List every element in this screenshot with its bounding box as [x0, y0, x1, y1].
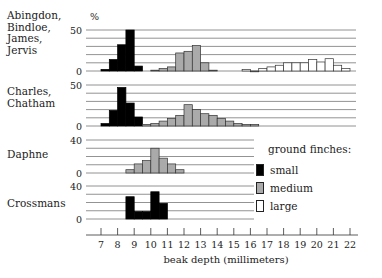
- histogram-bar-small: [134, 212, 142, 219]
- histogram-bar-large: [325, 59, 333, 71]
- x-tick-label: 16: [244, 239, 256, 250]
- histogram-bar-small: [118, 87, 126, 126]
- legend-item-large: large: [256, 197, 351, 215]
- histogram-bar-medium: [167, 119, 175, 126]
- island-label: Chatham: [7, 97, 55, 109]
- histogram-bar-small: [109, 60, 117, 71]
- histogram-bar-small: [134, 66, 142, 71]
- histogram-bar-large: [309, 60, 317, 71]
- legend-title: ground finches:: [268, 143, 351, 155]
- histogram-bar-medium-tail: [176, 170, 184, 173]
- x-tick-label: 17: [261, 239, 273, 250]
- swatch-small-icon: [256, 164, 264, 176]
- x-tick-label: 18: [278, 239, 290, 250]
- histogram-bar-medium: [159, 69, 167, 71]
- beak-depth-histograms: %050Abingdon,Bindloe,James,Jervis050Char…: [0, 0, 382, 278]
- histogram-bar-large: [259, 69, 267, 71]
- histogram-bar-medium: [184, 51, 192, 71]
- legend-label-large: large: [270, 200, 298, 212]
- legend-label-medium: medium: [270, 182, 313, 194]
- island-label: James,: [6, 32, 42, 44]
- histogram-bar-small: [143, 212, 151, 219]
- histogram-bar-medium: [209, 115, 217, 126]
- x-tick-label: 11: [161, 239, 173, 250]
- histogram-bar-large: [317, 62, 325, 71]
- y-tick-label: 40: [70, 135, 82, 146]
- histogram-bar-medium: [176, 53, 184, 71]
- x-tick-label: 14: [211, 239, 223, 250]
- y-unit-label: %: [90, 11, 99, 22]
- x-tick-label: 9: [131, 239, 137, 250]
- histogram-bar-medium: [209, 70, 217, 71]
- island-label: Jervis: [6, 44, 37, 56]
- x-tick-label: 8: [115, 239, 121, 250]
- histogram-bar-large: [333, 65, 341, 71]
- histogram-bar-medium: [226, 121, 234, 126]
- histogram-bar-medium: [167, 67, 175, 71]
- histogram-bar-medium: [201, 63, 209, 71]
- histogram-bar-medium: [159, 158, 167, 173]
- histogram-bar-large: [284, 63, 292, 71]
- histogram-bar-medium: [201, 114, 209, 126]
- histogram-bar-large: [300, 63, 308, 71]
- x-tick-label: 10: [145, 239, 157, 250]
- histogram-bar-medium: [151, 124, 159, 126]
- y-tick-label: 0: [76, 121, 82, 132]
- histogram-bar-small: [101, 69, 109, 71]
- swatch-large-icon: [256, 200, 264, 212]
- histogram-bar-small: [126, 103, 134, 126]
- island-label: Charles,: [7, 85, 51, 97]
- histogram-bar-small: [118, 45, 126, 71]
- y-tick-label: 50: [70, 25, 82, 36]
- histogram-bar-small: [159, 203, 167, 219]
- y-tick-label: 0: [76, 214, 82, 225]
- histogram-bar-medium: [234, 124, 242, 126]
- legend-label-small: small: [270, 164, 298, 176]
- island-label: Daphne: [7, 148, 48, 160]
- histogram-bar-small: [151, 192, 159, 219]
- x-tick-label: 22: [344, 239, 356, 250]
- histogram-bar-small: [126, 30, 134, 71]
- histogram-bar-large: [267, 67, 275, 71]
- legend-item-medium: medium: [256, 179, 351, 197]
- histogram-bar-medium: [151, 70, 159, 71]
- legend: ground finches: small medium large: [268, 143, 351, 215]
- histogram-bar-medium: [143, 124, 151, 126]
- x-tick-label: 7: [98, 239, 104, 250]
- x-tick-label: 13: [195, 239, 207, 250]
- histogram-bar-medium: [250, 124, 258, 126]
- histogram-bar-small: [101, 124, 109, 126]
- histogram-bar-small: [109, 110, 117, 126]
- histogram-bar-large: [275, 65, 283, 71]
- histogram-bar-medium: [184, 105, 192, 126]
- histogram-bar-medium: [192, 46, 200, 71]
- histogram-bar-large: [242, 69, 250, 71]
- y-tick-label: 40: [70, 181, 82, 192]
- histogram-bar-medium: [143, 161, 151, 173]
- histogram-bar-medium: [192, 110, 200, 126]
- histogram-bar-large: [292, 63, 300, 71]
- histogram-bar-medium: [151, 148, 159, 173]
- histogram-bar-medium: [217, 119, 225, 126]
- island-label: Bindloe,: [7, 21, 51, 33]
- x-axis-title: beak depth (millimeters): [163, 254, 288, 265]
- histogram-bar-large: [342, 69, 350, 71]
- histogram-bar-large: [250, 71, 258, 72]
- swatch-medium-icon: [256, 182, 264, 194]
- x-tick-label: 20: [311, 239, 323, 250]
- island-label: Crossmans: [7, 197, 66, 209]
- histogram-bar-medium: [159, 121, 167, 126]
- x-tick-label: 19: [294, 239, 306, 250]
- island-label: Abingdon,: [6, 9, 61, 21]
- histogram-bar-medium: [134, 164, 142, 173]
- histogram-bar-medium: [242, 124, 250, 126]
- y-tick-label: 0: [76, 66, 82, 77]
- histogram-bar-small: [126, 197, 134, 219]
- y-tick-label: 50: [70, 80, 82, 91]
- histogram-bar-medium: [126, 170, 134, 173]
- histogram-bar-small: [134, 117, 142, 126]
- y-tick-label: 0: [76, 168, 82, 179]
- x-tick-label: 15: [228, 239, 240, 250]
- histogram-bar-medium: [176, 115, 184, 126]
- histogram-bar-medium: [167, 164, 175, 173]
